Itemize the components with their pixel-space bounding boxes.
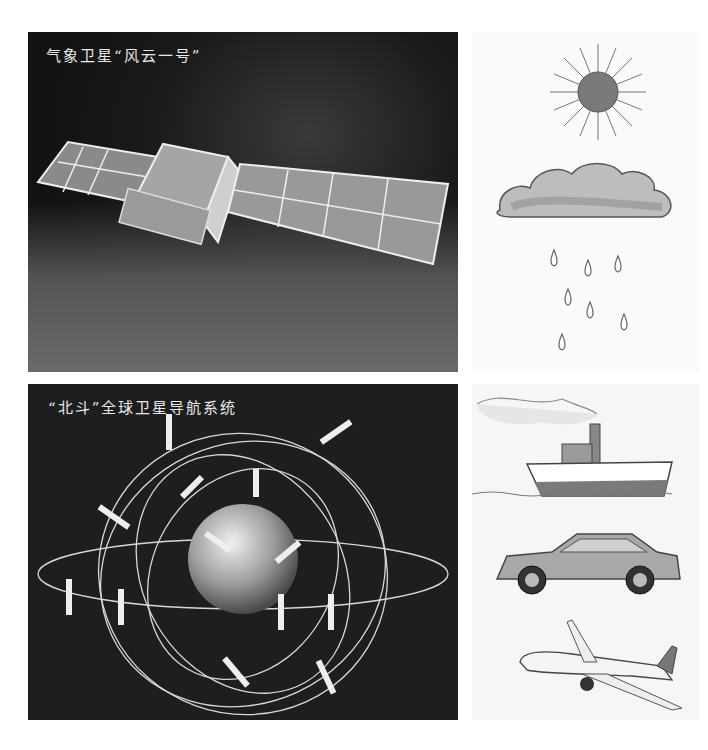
body-text-clipped (60, 740, 660, 750)
transport-icons-column (472, 384, 700, 720)
airplane-icon (520, 620, 682, 710)
rain-icon (551, 250, 627, 350)
orbits-diagram (28, 384, 458, 720)
car-icon (497, 534, 680, 594)
sun-icon (550, 44, 646, 140)
cloud-icon (497, 164, 671, 218)
satellite-icon (28, 32, 458, 372)
weather-icons-column (472, 32, 700, 372)
beidou-illustration: “北斗”全球卫星导航系统 (28, 384, 458, 720)
ship-icon (472, 398, 672, 496)
satellite-caption: 气象卫星“风云一号” (46, 44, 201, 65)
weather-satellite-illustration: 气象卫星“风云一号” (28, 32, 458, 372)
beidou-caption: “北斗”全球卫星导航系统 (48, 396, 237, 417)
